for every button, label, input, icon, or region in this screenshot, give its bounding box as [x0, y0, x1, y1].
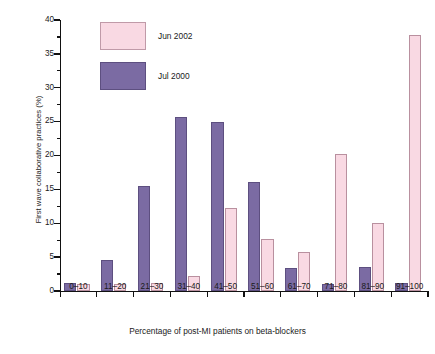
x-axis-tick [280, 291, 281, 297]
y-axis-tick [54, 87, 60, 88]
y-axis-tick-label: 20 [32, 151, 54, 159]
y-axis-tick-labels: 0510152025303540 [30, 0, 54, 354]
x-axis-tick [96, 291, 97, 297]
bar-jun-2002 [335, 154, 347, 291]
bar-jul-2000 [248, 182, 260, 291]
x-axis-tick [317, 291, 318, 297]
y-axis-tick [54, 155, 60, 156]
y-axis-minor-tick [57, 36, 61, 37]
y-axis-minor-tick [57, 273, 61, 274]
y-axis-minor-tick [57, 138, 61, 139]
x-axis-title: Percentage of post-MI patients on beta-b… [0, 326, 435, 336]
bar-jun-2002 [372, 223, 384, 291]
bar-jun-2002 [409, 35, 421, 291]
x-axis-tick [243, 291, 244, 297]
y-axis-minor-tick [57, 240, 61, 241]
bar-jun-2002 [225, 208, 237, 291]
x-axis-tick [427, 291, 428, 297]
y-axis-minor-tick [57, 70, 61, 71]
y-axis-tick [54, 189, 60, 190]
bar-jul-2000 [175, 117, 187, 291]
bar-jul-2000 [138, 186, 150, 291]
legend-item: Jun 2002 [100, 22, 290, 50]
y-axis-tick-label: 0 [32, 287, 54, 295]
legend-swatch [100, 62, 146, 90]
y-axis-tick [54, 223, 60, 224]
x-axis-tick [354, 291, 355, 297]
legend-label: Jun 2002 [158, 31, 192, 41]
y-axis-tick [54, 256, 60, 257]
y-axis-minor-tick [57, 206, 61, 207]
x-axis-tick [391, 291, 392, 297]
legend-item: Jul 2000 [100, 62, 290, 90]
y-axis-minor-tick [57, 172, 61, 173]
x-axis-category-label: 91–100 [388, 282, 432, 291]
x-axis-tick [133, 291, 134, 297]
y-axis-line [60, 20, 61, 291]
y-axis-tick [54, 19, 60, 20]
bar-jul-2000 [211, 122, 223, 291]
x-axis-tick [60, 291, 61, 297]
y-axis-minor-tick [57, 104, 61, 105]
y-axis-tick-label: 40 [32, 16, 54, 24]
x-axis-tick [207, 291, 208, 297]
legend-swatch [100, 22, 146, 50]
y-axis-tick [54, 53, 60, 54]
bar-chart-figure: First wave collaborative practices (%) 0… [0, 0, 435, 354]
chart-legend: Jun 2002Jul 2000 [100, 22, 290, 92]
y-axis-tick [54, 121, 60, 122]
x-axis-tick [170, 291, 171, 297]
y-axis-tick-label: 10 [32, 219, 54, 227]
y-axis-tick-label: 35 [32, 50, 54, 58]
y-axis-tick-label: 15 [32, 185, 54, 193]
y-axis-tick-label: 25 [32, 117, 54, 125]
y-axis-tick-label: 5 [32, 253, 54, 261]
legend-label: Jul 2000 [158, 71, 190, 81]
y-axis-tick-label: 30 [32, 84, 54, 92]
